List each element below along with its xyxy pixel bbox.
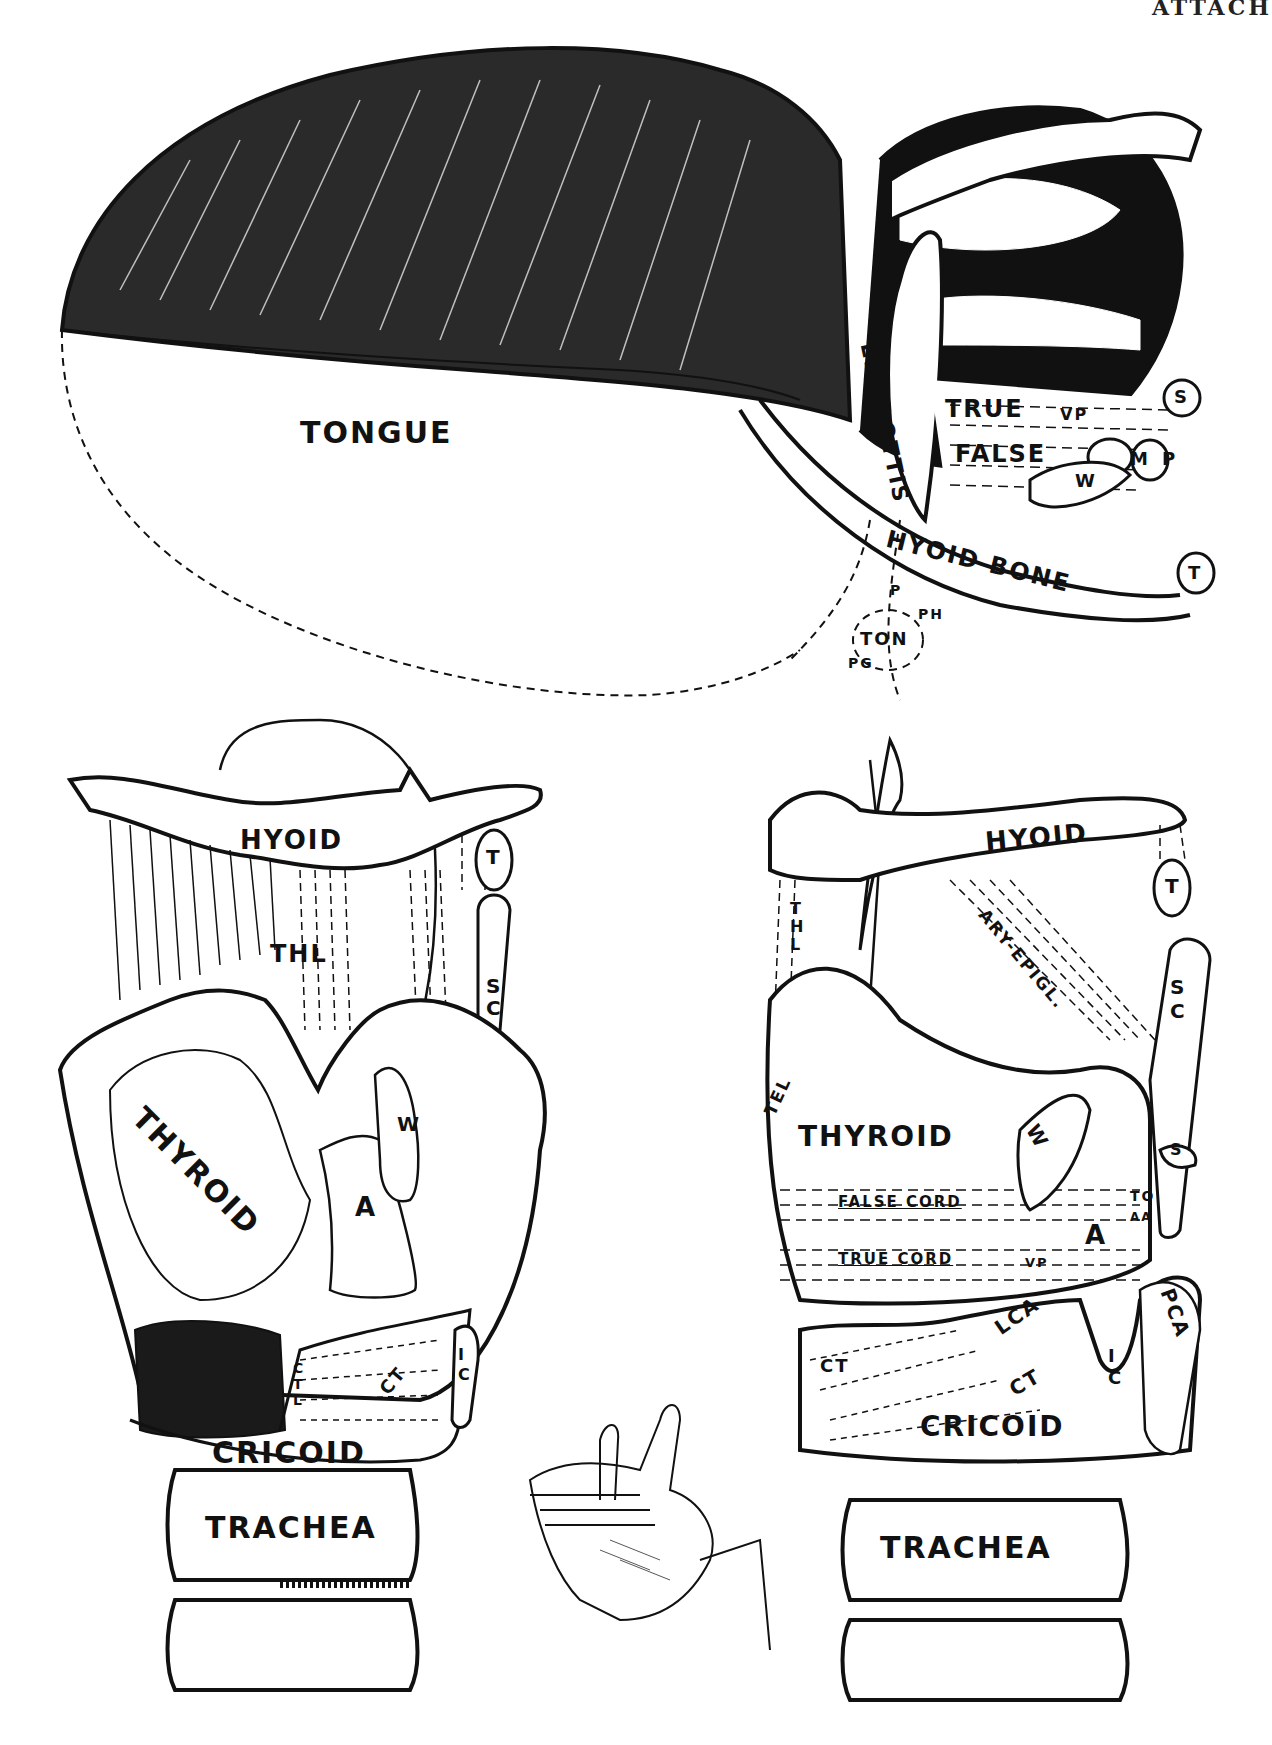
label-front-sc: SC <box>486 975 498 1019</box>
label-side-cricoid: CRICOID <box>920 1410 1065 1443</box>
label-p: P <box>1162 448 1177 469</box>
label-front-w: W <box>397 1112 421 1136</box>
label-side-a: A <box>1085 1220 1107 1250</box>
label-t: T <box>1188 562 1202 583</box>
anatomy-illustration <box>0 0 1272 1745</box>
label-p2: P <box>890 582 902 598</box>
label-side-true-cord: TRUE CORD <box>838 1250 953 1268</box>
label-w: W <box>1075 470 1097 491</box>
label-front-ic: IC <box>458 1345 468 1385</box>
label-vp: VP <box>1060 405 1088 424</box>
label-side-false-cord: FALSE CORD <box>838 1193 962 1211</box>
label-front-t: T <box>486 845 502 869</box>
label-side-s: S <box>1170 1140 1184 1159</box>
label-front-cricoid: CRICOID <box>212 1435 366 1470</box>
label-tongue: TONGUE <box>300 415 453 450</box>
label-front-a: A <box>355 1192 377 1222</box>
label-front-trachea: TRACHEA <box>205 1510 377 1545</box>
label-side-t: T <box>1165 874 1181 898</box>
label-side-sc: SC <box>1170 975 1182 1023</box>
hand-sketch-icon <box>530 1405 770 1650</box>
label-ph: PH <box>918 606 944 622</box>
label-side-ic: IC <box>1108 1345 1118 1389</box>
label-front-thl: THL <box>270 940 328 968</box>
label-side-aa: AA <box>1130 1210 1153 1224</box>
label-side-trachea: TRACHEA <box>880 1530 1052 1565</box>
label-pg: PG <box>848 655 874 671</box>
label-s: S <box>1174 386 1189 407</box>
label-front-ctl: CTL <box>293 1360 303 1408</box>
label-ton: TON <box>860 628 909 649</box>
label-false: FALSE <box>955 440 1046 468</box>
label-front-hyoid: HYOID <box>240 825 343 855</box>
tongue-figure <box>62 48 1214 700</box>
label-side-thl: THL <box>790 900 802 954</box>
label-side-vp: VP <box>1025 1255 1049 1270</box>
label-side-thyroid: THYROID <box>798 1120 954 1153</box>
label-side-ct-left: CT <box>820 1355 850 1376</box>
label-side-to: TO <box>1130 1188 1155 1204</box>
label-m: M <box>1130 448 1150 469</box>
label-true: TRUE <box>945 395 1024 423</box>
